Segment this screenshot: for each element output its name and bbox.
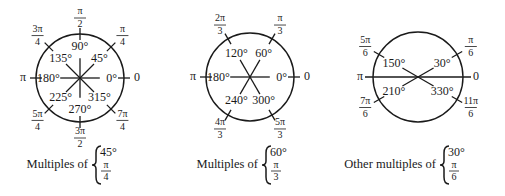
radian-label: 0 <box>134 70 140 84</box>
radian-label: π <box>20 70 26 84</box>
fraction-numerator: π <box>277 12 282 23</box>
tick-mark <box>225 34 231 44</box>
fraction-numerator: 5π <box>33 108 43 119</box>
fraction-denominator: 4 <box>120 36 125 47</box>
radian-label: 7π6 <box>359 95 371 119</box>
angle-ray <box>80 64 94 78</box>
brace-degree: 45° <box>100 145 117 159</box>
radian-label: π2 <box>74 5 86 29</box>
caption-text: Multiples of <box>197 157 259 171</box>
diagram-multiples-60: 0°060°π3120°2π3180°π240°4π3300°5π3Multip… <box>190 12 310 184</box>
angle-ray <box>418 68 434 77</box>
radian-label: 0 <box>134 70 140 84</box>
brace-radian-numerator: π <box>273 159 278 170</box>
fraction-numerator: 2π <box>215 12 225 23</box>
caption-text: Other multiples of <box>344 157 436 171</box>
radian-label: 3π2 <box>74 125 86 149</box>
radian-label: 5π6 <box>359 34 371 58</box>
degree-label: 210° <box>382 84 405 98</box>
fraction-numerator: 7π <box>117 108 127 119</box>
unit-circle-diagrams: 0°045°π490°π2135°3π4180°π225°5π4270°3π23… <box>0 0 505 196</box>
degree-label: 90° <box>72 39 89 53</box>
degree-label: 180° <box>37 71 60 85</box>
radian-label: π6 <box>465 34 477 58</box>
radian-label: π <box>357 69 363 83</box>
fraction-denominator: 6 <box>468 108 473 119</box>
brace-radian-denominator: 3 <box>274 171 279 182</box>
degree-label: 180° <box>207 70 230 84</box>
radian-label: 4π3 <box>214 116 226 140</box>
degree-label: 315° <box>88 90 111 104</box>
degree-label: 270° <box>69 102 92 116</box>
fraction-denominator: 4 <box>120 121 125 132</box>
radian-label: 0 <box>473 69 479 83</box>
brace-radian-denominator: 6 <box>452 171 457 182</box>
degree-label: 0° <box>276 70 287 84</box>
angle-ray <box>240 60 250 77</box>
fraction-numerator: 4π <box>215 116 225 127</box>
radian-label: 0 <box>304 69 310 83</box>
brace-radian-numerator: π <box>103 159 108 170</box>
radian-label: π <box>190 69 196 83</box>
radian-label: 11π6 <box>463 95 478 119</box>
fraction-numerator: 11π <box>463 95 478 106</box>
angle-ray <box>250 77 260 94</box>
fraction-denominator: 6 <box>363 47 368 58</box>
diagram-multiples-45: 0°045°π490°π2135°3π4180°π225°5π4270°3π23… <box>20 5 140 184</box>
brace-radian-denominator: 4 <box>104 171 109 182</box>
fraction-numerator: π <box>77 5 82 16</box>
brace-radian-numerator: π <box>451 159 456 170</box>
radian-label: 5π3 <box>274 116 286 140</box>
radian-label: 7π4 <box>116 108 128 132</box>
fraction-denominator: 3 <box>278 25 283 36</box>
fraction-denominator: 3 <box>218 25 223 36</box>
tick-mark <box>225 110 231 120</box>
radian-label: π3 <box>274 12 286 36</box>
radian-label: 0 <box>473 69 479 83</box>
fraction-numerator: π <box>120 23 125 34</box>
diagram-other-multiples-30: 030°π6150°5π6π210°7π6330°11π6Other multi… <box>344 32 479 184</box>
brace-degree: 30° <box>448 145 465 159</box>
fraction-denominator: 2 <box>78 18 83 29</box>
fraction-numerator: 5π <box>360 34 370 45</box>
fraction-denominator: 3 <box>278 129 283 140</box>
degree-label: 330° <box>431 84 454 98</box>
degree-label: 0° <box>106 71 117 85</box>
radian-label: π <box>190 69 196 83</box>
fraction-numerator: 3π <box>75 125 85 136</box>
degree-label: 150° <box>382 56 405 70</box>
fraction-denominator: 4 <box>35 121 40 132</box>
angle-ray <box>66 64 80 78</box>
angle-ray <box>240 77 250 94</box>
caption-text: Multiples of <box>27 157 89 171</box>
radian-label: 0 <box>304 69 310 83</box>
degree-label: 60° <box>255 46 272 60</box>
degree-label: 45° <box>91 51 108 65</box>
radian-label: 3π4 <box>32 23 44 47</box>
unit-circle-figure: 0°045°π490°π2135°3π4180°π225°5π4270°3π23… <box>0 0 505 196</box>
fraction-denominator: 4 <box>35 36 40 47</box>
degree-label: 300° <box>252 93 275 107</box>
fraction-denominator: 2 <box>78 138 83 149</box>
fraction-numerator: 7π <box>360 95 370 106</box>
tick-mark <box>452 52 462 58</box>
degree-label: 135° <box>49 51 72 65</box>
fraction-numerator: 5π <box>275 116 285 127</box>
radian-label: π <box>20 70 26 84</box>
degree-label: 120° <box>225 46 248 60</box>
tick-mark <box>269 34 275 44</box>
radian-label: π <box>357 69 363 83</box>
radian-label: π4 <box>116 23 128 47</box>
fraction-denominator: 3 <box>218 129 223 140</box>
fraction-denominator: 6 <box>468 47 473 58</box>
degree-label: 240° <box>225 93 248 107</box>
radian-label: 5π4 <box>32 108 44 132</box>
brace-degree: 60° <box>270 145 287 159</box>
fraction-numerator: 3π <box>33 23 43 34</box>
angle-ray <box>250 60 260 77</box>
degree-label: 30° <box>434 56 451 70</box>
fraction-numerator: π <box>468 34 473 45</box>
fraction-denominator: 6 <box>363 108 368 119</box>
radian-label: 2π3 <box>214 12 226 36</box>
